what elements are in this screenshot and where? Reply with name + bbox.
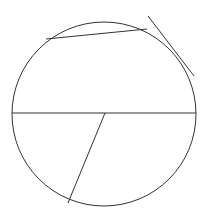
geometry-diagram: [0, 0, 206, 219]
segment-to-circle: [68, 113, 105, 203]
circle: [12, 22, 196, 206]
tangent-line: [148, 16, 194, 76]
upper-chord: [46, 29, 147, 39]
